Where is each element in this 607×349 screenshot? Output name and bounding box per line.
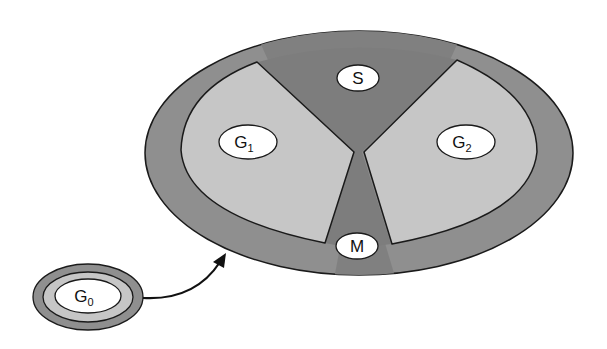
- cell-cycle-diagram: S G1 G2 M G0: [0, 0, 607, 349]
- svg-text:S: S: [352, 69, 363, 88]
- s-label: S: [337, 65, 379, 91]
- re-entry-arrow: [143, 253, 226, 298]
- svg-text:M: M: [350, 237, 364, 256]
- g0-quiescent: G0: [33, 264, 143, 330]
- m-label: M: [336, 233, 378, 259]
- g1-label: G1: [219, 125, 277, 159]
- g2-label: G2: [437, 125, 495, 159]
- arrowhead-icon: [213, 253, 226, 268]
